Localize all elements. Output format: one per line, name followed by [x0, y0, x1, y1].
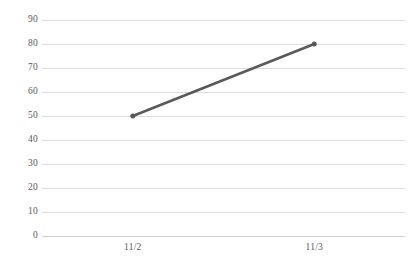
- data-point-marker: [130, 114, 135, 119]
- line-chart: 0102030405060708090 11/211/3: [0, 0, 417, 270]
- data-series-layer: [0, 0, 417, 270]
- series-line: [133, 44, 315, 116]
- data-point-marker: [312, 42, 317, 47]
